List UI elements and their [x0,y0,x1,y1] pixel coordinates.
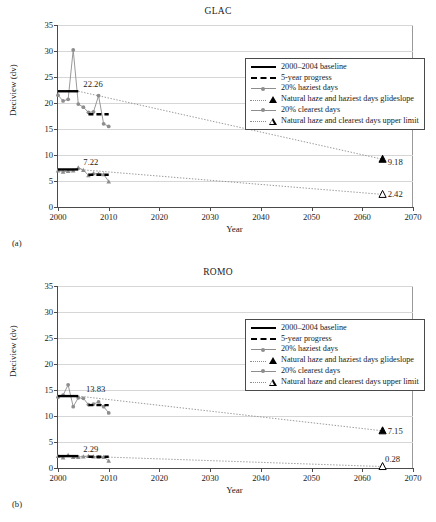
data-marker [102,122,106,126]
x-tick-label: 2000 [49,468,66,483]
value-annotation: 2.29 [83,444,98,454]
legend-key-solid-line [250,327,277,329]
legend-key-marker-line [250,368,277,375]
y-axis-label: Deciview (dv) [8,64,18,116]
x-axis-label: Year [57,224,412,234]
y-tick-label: 10 [44,150,58,160]
x-axis-label: Year [57,485,412,495]
legend-item: 5-year progress [250,73,419,84]
legend-key-solid-line [250,66,277,68]
x-tick-label: 2060 [354,207,371,222]
legend-label: 20% clearest days [281,366,340,377]
chart-title: ROMO [0,267,436,277]
endpoint-triangle-icon [379,190,386,197]
y-tick-label: 20 [44,359,58,369]
data-marker [66,383,70,387]
x-tick-label: 2040 [252,468,269,483]
x-tick-label: 2050 [303,468,320,483]
value-annotation: 0.28 [385,454,400,464]
legend-key-open-triangle-icon [250,118,277,125]
value-annotation: 7.15 [388,426,403,436]
x-tick-label: 2010 [100,207,117,222]
glideslope-line [78,169,382,194]
y-tick-label: 15 [44,385,58,395]
x-tick-label: 2060 [354,468,371,483]
y-tick-label: 25 [44,72,58,82]
y-tick-label: 25 [44,333,58,343]
value-annotation: 7.22 [83,157,98,167]
y-tick-label: 35 [44,281,58,291]
data-marker [107,125,111,129]
chart-legend: 2000–2004 baseline5-year progress20% haz… [245,58,425,130]
legend-key-marker-line [250,85,277,92]
figure-root: GLACDeciview (dv)05101520253035200020102… [0,0,436,522]
x-tick-label: 2050 [303,207,320,222]
data-marker [56,93,60,97]
panel-tag: (a) [12,238,22,248]
y-tick-label: 35 [44,20,58,30]
x-tick-label: 2010 [100,468,117,483]
legend-item: 2000–2004 baseline [250,323,419,334]
data-marker [81,105,85,109]
y-tick-label: 10 [44,411,58,421]
legend-item: 20% clearest days [250,366,419,377]
legend-item: Natural haze and haziest days glideslope [250,355,419,366]
chart-panel: ROMODeciview (dv)05101520253035200020102… [0,261,436,522]
legend-item: 20% haziest days [250,344,419,355]
y-axis-label: Deciview (dv) [8,325,18,377]
legend-item: 5-year progress [250,334,419,345]
legend-key-filled-triangle-icon [250,96,277,103]
legend-item: Natural haze and haziest days glideslope [250,94,419,105]
x-tick-label: 2040 [252,207,269,222]
legend-item: Natural haze and clearest days upper lim… [250,116,419,127]
panel-tag: (b) [12,499,22,509]
value-annotation: 2.42 [388,189,403,199]
value-annotation: 9.18 [388,157,403,167]
legend-label: 20% haziest days [281,344,338,355]
legend-label: 20% haziest days [281,83,338,94]
chart-panel: GLACDeciview (dv)05101520253035200020102… [0,0,436,261]
data-marker [107,411,111,415]
y-tick-label: 15 [44,124,58,134]
x-tick-label: 2020 [151,468,168,483]
data-marker [61,99,65,103]
y-tick-label: 30 [44,307,58,317]
legend-label: 5-year progress [281,334,332,345]
legend-label: Natural haze and haziest days glideslope [281,94,414,105]
x-tick-label: 2070 [404,468,421,483]
legend-item: 2000–2004 baseline [250,62,419,73]
glideslope-line [78,456,382,466]
x-tick-label: 2000 [49,207,66,222]
data-marker [71,405,75,409]
y-tick-label: 5 [49,437,58,447]
x-tick-label: 2030 [202,207,219,222]
data-marker [66,97,70,101]
legend-label: Natural haze and clearest days upper lim… [281,116,419,127]
value-annotation: 22.26 [83,79,102,89]
legend-key-open-triangle-icon [250,379,277,386]
x-tick-label: 2030 [202,468,219,483]
glideslope-line [78,396,382,431]
legend-item: 20% clearest days [250,105,419,116]
legend-item: 20% haziest days [250,83,419,94]
legend-key-dashed-line [250,338,277,340]
data-marker [97,400,101,404]
chart-legend: 2000–2004 baseline5-year progress20% haz… [245,319,425,391]
data-marker [71,48,75,52]
legend-key-marker-line [250,346,277,353]
y-tick-label: 30 [44,46,58,56]
y-tick-label: 20 [44,98,58,108]
x-tick-label: 2070 [404,207,421,222]
y-tick-label: 5 [49,176,58,186]
x-tick-label: 2020 [151,207,168,222]
legend-key-filled-triangle-icon [250,357,277,364]
legend-label: Natural haze and clearest days upper lim… [281,377,419,388]
legend-item: Natural haze and clearest days upper lim… [250,377,419,388]
legend-key-dashed-line [250,77,277,79]
value-annotation: 13.83 [86,384,105,394]
legend-label: 20% clearest days [281,105,340,116]
chart-title: GLAC [0,6,436,16]
legend-label: 2000–2004 baseline [281,62,347,73]
plot-area: 0510152025303520002010202020302040205020… [57,286,413,469]
legend-label: Natural haze and haziest days glideslope [281,355,414,366]
